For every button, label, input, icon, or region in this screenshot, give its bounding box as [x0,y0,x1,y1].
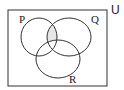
set-r-label: R [69,74,76,85]
set-p-label: P [19,14,25,25]
universe-label: U [111,4,120,16]
set-q-label: Q [91,14,99,25]
